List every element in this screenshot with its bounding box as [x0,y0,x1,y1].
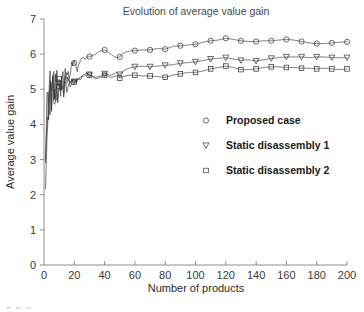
y-axis-title: Average value gain [4,95,16,189]
x-tick-label: 120 [217,269,235,281]
x-tick-label: 20 [68,269,80,281]
x-tick-label: 140 [247,269,265,281]
chart-figure: Evolution of average value gain 01234567… [0,0,364,312]
x-tick-label: 40 [98,269,110,281]
x-tick-label: 80 [159,269,171,281]
line-chart: Evolution of average value gain 01234567… [0,0,364,312]
y-tick-label: 7 [30,13,36,25]
y-tick-label: 6 [30,48,36,60]
y-tick-label: 0 [30,259,36,271]
y-tick-label: 4 [30,118,36,130]
x-tick-label: 60 [129,269,141,281]
chart-title: Evolution of average value gain [123,5,270,17]
x-tick-label: 200 [338,269,356,281]
y-tick-label: 5 [30,83,36,95]
legend-label: Static disassembly 2 [226,164,329,176]
scan-artifact [6,307,31,309]
legend-label: Static disassembly 1 [226,139,329,151]
x-tick-label: 180 [308,269,326,281]
x-tick-label: 0 [41,269,47,281]
y-tick-label: 2 [30,189,36,201]
y-tick-label: 3 [30,154,36,166]
x-axis-title: Number of products [148,282,245,294]
legend-label: Proposed case [226,114,301,126]
x-tick-label: 100 [186,269,204,281]
x-tick-label: 160 [277,269,295,281]
y-tick-label: 1 [30,224,36,236]
